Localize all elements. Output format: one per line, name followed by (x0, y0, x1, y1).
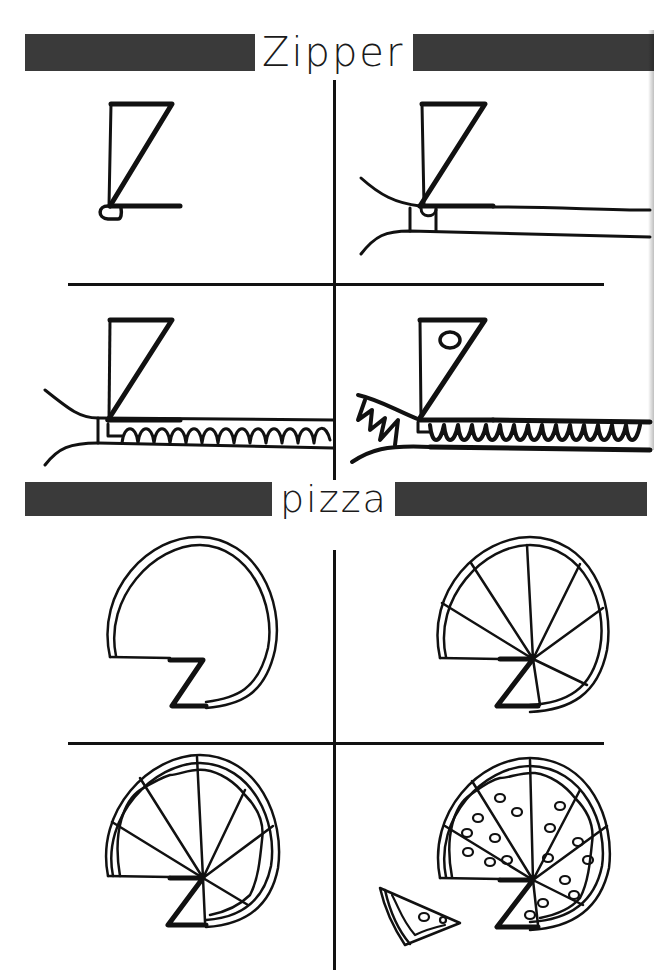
illustrations (0, 0, 654, 975)
pizza-slice (380, 888, 460, 945)
pizza-step-2 (437, 537, 608, 712)
zipper-step-2 (361, 104, 650, 254)
pizza-step-1 (107, 537, 276, 708)
zipper-step-3 (45, 320, 333, 465)
zipper-step-4 (352, 320, 650, 462)
pizza-step-3 (106, 755, 279, 927)
page-edge-shadow (648, 30, 654, 450)
zipper-step-1 (100, 104, 180, 219)
pizza-step-4 (438, 758, 610, 930)
